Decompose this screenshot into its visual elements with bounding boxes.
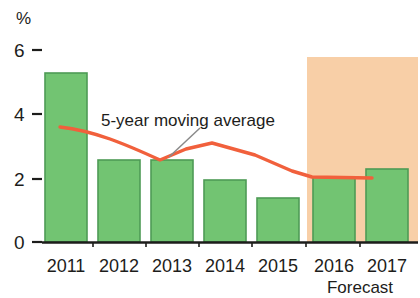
y-axis-unit-label: % <box>16 9 31 28</box>
bar-2016 <box>313 177 355 242</box>
chart-canvas: % 6 4 2 0 2011 2012 2013 2014 2015 2016 … <box>0 0 420 298</box>
bar-2013 <box>151 160 193 242</box>
forecast-caption-label: Forecast <box>327 278 393 297</box>
bar-2011 <box>45 73 87 242</box>
bar-2017 <box>366 169 408 242</box>
x-axis-label-2016: 2016 <box>314 256 354 276</box>
bar-2015 <box>257 198 299 242</box>
x-axis-label-2011: 2011 <box>47 256 86 276</box>
y-axis-label-6: 6 <box>14 40 25 61</box>
y-axis-label-0: 0 <box>14 232 25 253</box>
chart-container: % 6 4 2 0 2011 2012 2013 2014 2015 2016 … <box>0 0 420 298</box>
bar-2014 <box>204 180 246 242</box>
y-axis-label-2: 2 <box>14 169 25 190</box>
x-axis-label-2015: 2015 <box>258 256 298 276</box>
x-axis-label-2014: 2014 <box>205 256 245 276</box>
y-axis-label-4: 4 <box>14 104 25 125</box>
moving-average-annotation-label: 5-year moving average <box>101 111 275 130</box>
x-axis-label-2013: 2013 <box>152 256 192 276</box>
x-axis-label-2017: 2017 <box>367 256 407 276</box>
x-axis-label-2012: 2012 <box>99 256 139 276</box>
bar-2012 <box>98 160 140 242</box>
